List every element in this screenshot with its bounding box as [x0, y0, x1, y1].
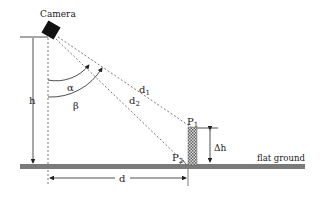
d1-label: d1 [139, 84, 150, 97]
delta-h-label: Δh [214, 143, 226, 153]
object-post [188, 127, 197, 165]
h-label: h [29, 95, 36, 106]
d1-line [58, 37, 191, 127]
d2-label: d2 [129, 95, 140, 108]
alpha-label: α [67, 82, 74, 93]
alpha-arc [48, 65, 89, 81]
ground-label: flat ground [257, 153, 305, 163]
d-label: d [119, 173, 126, 184]
beta-arc [48, 68, 102, 97]
p2-label: P2 [172, 152, 183, 165]
camera-geometry-diagram: Camera h α β d1 d2 flat ground P1 P2 Δh … [0, 0, 320, 197]
flat-ground [20, 164, 305, 169]
beta-label: β [73, 100, 79, 111]
camera-label: Camera [40, 9, 76, 19]
